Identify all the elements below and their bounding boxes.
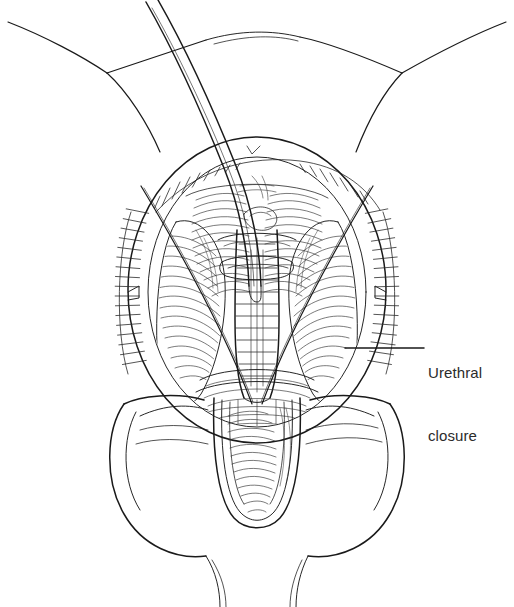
label-line-1: Urethral bbox=[428, 362, 512, 383]
surgical-illustration: .ln { fill:none; stroke:#1a1a1a; stroke-… bbox=[0, 0, 514, 607]
label-urethral-closure: Urethral closure bbox=[428, 320, 512, 488]
label-line-2: closure bbox=[428, 425, 512, 446]
figure-root: .ln { fill:none; stroke:#1a1a1a; stroke-… bbox=[0, 0, 514, 607]
